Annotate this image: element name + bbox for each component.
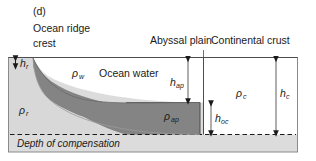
caption-line-1: Ocean ridge <box>33 22 90 34</box>
cross-section-diagram: (d) Ocean ridge crest Abyssal plain Cont… <box>0 0 316 161</box>
rho-w-symbol: ρ <box>71 67 78 79</box>
figure-root: (d) Ocean ridge crest Abyssal plain Cont… <box>0 0 316 161</box>
rho-ap-subscript: ap <box>171 116 179 124</box>
label-ocean-water: Ocean water <box>99 67 159 79</box>
h-oc-subscript: oc <box>221 118 229 125</box>
h-ap-subscript: ap <box>176 82 184 90</box>
rho-c-symbol: ρ <box>235 87 242 99</box>
header-abyssal-plain: Abyssal plain <box>150 34 212 46</box>
header-continental-crust: Continental crust <box>211 34 290 46</box>
rho-r-symbol: ρ <box>18 104 25 116</box>
rho-ap-symbol: ρ <box>163 110 170 122</box>
panel-tag: (d) <box>33 5 46 17</box>
label-depth-of-compensation: Depth of compensation <box>17 138 120 149</box>
rho-c-subscript: c <box>243 93 247 100</box>
h-c-subscript: c <box>286 93 290 100</box>
caption-line-2: crest <box>33 37 56 49</box>
